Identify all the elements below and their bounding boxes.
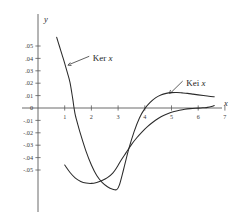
y-tick-label: 0 xyxy=(30,104,33,111)
x-tick-label: 2 xyxy=(90,113,93,120)
y-tick-label: -.04 xyxy=(23,154,33,161)
y-tick-label: -.01 xyxy=(23,117,33,124)
y-tick-label: .03 xyxy=(25,67,33,74)
x-tick-label: 4 xyxy=(143,113,146,120)
series-annotation-label: Ker x xyxy=(93,53,113,63)
annotation-arrow-line xyxy=(171,81,183,92)
x-tick-label: 7 xyxy=(223,113,226,120)
annotation-group: Ker xKei x xyxy=(68,53,206,94)
x-axis-label: x xyxy=(223,98,228,108)
annotation-arrow-line xyxy=(70,56,90,64)
x-tick-label: 6 xyxy=(197,113,200,120)
y-tick-label: -.02 xyxy=(23,129,33,136)
kelvin-functions-chart: 1234567 .05.04.03.02.010-.01-.02-.03-.04… xyxy=(0,0,237,224)
y-tick-label: .01 xyxy=(25,92,33,99)
x-tick-label: 5 xyxy=(170,113,173,120)
series-annotation-label: Kei x xyxy=(186,78,205,88)
chart-canvas: 1234567 .05.04.03.02.010-.01-.02-.03-.04… xyxy=(0,0,237,224)
y-tick-label: -.03 xyxy=(23,141,33,148)
x-tick-label: 3 xyxy=(117,113,120,120)
y-tick-label: .02 xyxy=(25,79,33,86)
axes-group xyxy=(22,14,222,212)
x-tick-label: 1 xyxy=(63,113,66,120)
y-tick-label: -.05 xyxy=(23,166,33,173)
y-tick-label: .05 xyxy=(25,42,33,49)
y-axis-label: y xyxy=(43,14,48,24)
y-tick-label: .04 xyxy=(25,55,33,62)
